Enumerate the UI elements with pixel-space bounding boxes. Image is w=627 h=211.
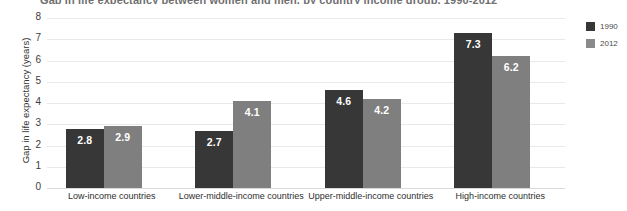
plot-area: 876543210 2.82.92.74.14.64.27.36.2	[47, 18, 565, 188]
legend-item-2012[interactable]: 2012	[586, 39, 627, 48]
y-axis-tick-label: 5	[15, 75, 41, 86]
bar-value-label: 7.3	[454, 38, 492, 50]
bar-value-label: 4.6	[325, 95, 363, 107]
y-axis-tick-label: 3	[15, 117, 41, 128]
bar-2012-3[interactable]: 6.2	[492, 56, 530, 188]
bar-value-label: 2.9	[104, 131, 142, 143]
y-axis-tick-label: 7	[15, 32, 41, 43]
bar-1990-2[interactable]: 4.6	[325, 90, 363, 188]
bar-1990-3[interactable]: 7.3	[454, 33, 492, 188]
gridline	[47, 188, 565, 189]
legend-label-2012: 2012	[600, 39, 618, 48]
bar-value-label: 2.8	[66, 134, 104, 146]
y-axis-tick-label: 8	[15, 11, 41, 22]
bar-value-label: 4.1	[233, 106, 271, 118]
bar-2012-1[interactable]: 4.1	[233, 101, 271, 188]
x-axis-label-1: Lower-middle-income countries	[177, 191, 307, 201]
y-axis-tick-label: 0	[15, 181, 41, 192]
bar-value-label: 6.2	[492, 61, 530, 73]
x-axis-category-labels: Low-income countriesLower-middle-income …	[47, 191, 565, 209]
bar-2012-2[interactable]: 4.2	[363, 99, 401, 188]
x-axis-label-2: Upper-middle-income countries	[306, 191, 436, 201]
legend-label-1990: 1990	[600, 22, 618, 31]
chart-title: Gap in life expectancy between women and…	[40, 0, 600, 4]
x-axis-label-3: High-income countries	[436, 191, 566, 201]
y-axis-tick-label: 4	[15, 96, 41, 107]
legend-swatch-2012-icon	[586, 39, 595, 48]
x-axis-label-0: Low-income countries	[47, 191, 177, 201]
y-axis-tick-label: 2	[15, 139, 41, 150]
chart-legend: 1990 2012	[586, 22, 627, 56]
bar-series-group: 2.82.92.74.14.64.27.36.2	[47, 18, 565, 188]
legend-swatch-1990-icon	[586, 22, 595, 31]
bar-1990-1[interactable]: 2.7	[195, 131, 233, 188]
bar-value-label: 2.7	[195, 136, 233, 148]
y-axis-tick-label: 6	[15, 54, 41, 65]
chart-container: Gap in life expectancy between women and…	[0, 0, 627, 211]
y-axis-tick-label: 1	[15, 160, 41, 171]
bar-1990-0[interactable]: 2.8	[66, 129, 104, 189]
bar-value-label: 4.2	[363, 104, 401, 116]
legend-item-1990[interactable]: 1990	[586, 22, 627, 31]
bar-2012-0[interactable]: 2.9	[104, 126, 142, 188]
